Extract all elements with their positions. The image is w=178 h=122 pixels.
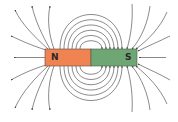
field-diagram xyxy=(0,0,178,122)
inner-field-loops-top xyxy=(60,15,122,50)
north-pole-label: N xyxy=(51,52,59,62)
inner-field-loops-bottom xyxy=(60,66,122,101)
south-pole-label: S xyxy=(125,52,131,62)
bar-magnet xyxy=(45,49,137,66)
